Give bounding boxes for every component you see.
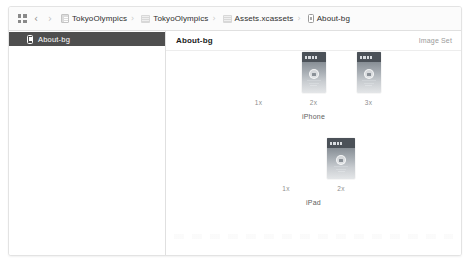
- xcode-window: ‹ › TokyoOlympics › TokyoOlympics › Asse…: [8, 6, 462, 256]
- breadcrumb-label: Assets.xcassets: [235, 14, 294, 23]
- thumb-header-band: [357, 52, 381, 62]
- image-slot-ipad-1x[interactable]: 1x: [259, 142, 314, 192]
- scale-label: 3x: [365, 99, 372, 106]
- breadcrumb-item-assets[interactable]: Assets.xcassets: [223, 14, 294, 23]
- image-asset-icon: [27, 35, 33, 44]
- image-slot-iphone-1x[interactable]: 1x: [231, 56, 286, 106]
- breadcrumb-label: TokyoOlympics: [72, 14, 127, 23]
- scale-label: 1x: [282, 185, 289, 192]
- asset-catalog-sidebar: About-bg: [9, 31, 166, 255]
- image-thumbnail[interactable]: [302, 52, 326, 93]
- asset-kind-label: Image Set: [419, 37, 452, 44]
- image-asset-icon: [308, 14, 314, 23]
- folder-icon: [223, 15, 232, 23]
- scale-label: 1x: [255, 99, 262, 106]
- image-thumbnail[interactable]: [357, 52, 381, 93]
- breadcrumb-label: About-bg: [317, 14, 350, 23]
- image-slot-iphone-3x[interactable]: 3x: [341, 56, 396, 106]
- breadcrumb-separator: ›: [131, 14, 134, 23]
- thumb-badge-icon: [309, 69, 319, 79]
- project-document-icon: [61, 14, 69, 23]
- thumb-text-lines: [307, 80, 321, 86]
- thumb-header-text: [330, 142, 343, 145]
- back-chevron-icon[interactable]: ‹: [29, 12, 43, 26]
- scale-label: 2x: [310, 99, 317, 106]
- slot-row: 1x 2x: [166, 56, 461, 106]
- thumb-drop-area[interactable]: [327, 138, 355, 179]
- breadcrumb-item-group[interactable]: TokyoOlympics: [141, 14, 208, 23]
- xcode-asset-catalog-screen: ‹ › TokyoOlympics › TokyoOlympics › Asse…: [0, 0, 468, 268]
- slot-row: 1x 2x: [166, 142, 461, 192]
- sidebar-item-label: About-bg: [38, 35, 70, 44]
- breadcrumb-label: TokyoOlympics: [153, 14, 208, 23]
- thumb-badge-icon: [336, 155, 346, 165]
- folder-icon: [141, 15, 150, 23]
- sidebar-item-about-bg[interactable]: About-bg: [9, 32, 165, 46]
- thumb-badge-icon: [364, 69, 374, 79]
- thumb-header-band: [327, 138, 355, 148]
- asset-detail-pane: About-bg Image Set 1x: [166, 31, 461, 255]
- device-group-iphone: 1x 2x: [166, 56, 461, 120]
- window-body: About-bg About-bg Image Set 1x: [9, 31, 461, 255]
- device-group-label: iPhone: [166, 113, 461, 120]
- breadcrumb-item-project[interactable]: TokyoOlympics: [61, 14, 127, 23]
- thumb-text-lines: [362, 80, 376, 86]
- thumb-header-text: [305, 56, 318, 59]
- thumb-header-band: [302, 52, 326, 62]
- thumb-drop-area[interactable]: [357, 52, 381, 93]
- canvas-bottom-divider: [174, 234, 453, 239]
- breadcrumb-separator: ›: [212, 14, 215, 23]
- breadcrumb-separator: ›: [297, 14, 300, 23]
- device-group-label: iPad: [166, 199, 461, 206]
- detail-header: About-bg Image Set: [166, 31, 461, 51]
- jump-bar-toolbar: ‹ › TokyoOlympics › TokyoOlympics › Asse…: [9, 7, 461, 31]
- image-slot-iphone-2x[interactable]: 2x: [286, 56, 341, 106]
- page-title: About-bg: [176, 36, 213, 45]
- thumb-drop-area[interactable]: [302, 52, 326, 93]
- forward-chevron-icon[interactable]: ›: [43, 12, 57, 26]
- scale-label: 2x: [337, 185, 344, 192]
- thumb-text-lines: [334, 166, 348, 172]
- image-thumbnail[interactable]: [327, 138, 355, 179]
- editor-options-grid-icon[interactable]: [15, 12, 29, 26]
- thumb-header-text: [360, 56, 373, 59]
- device-group-ipad: 1x 2x: [166, 142, 461, 206]
- asset-canvas: 1x 2x: [166, 52, 461, 255]
- image-slot-ipad-2x[interactable]: 2x: [314, 142, 369, 192]
- breadcrumb-item-asset[interactable]: About-bg: [308, 14, 350, 23]
